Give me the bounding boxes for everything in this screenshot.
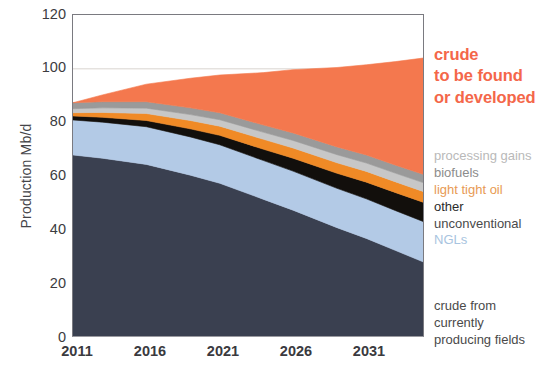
y-tick-120: 120 bbox=[30, 7, 66, 22]
x-tick-2031: 2031 bbox=[334, 344, 404, 359]
legend-footer-line-1: crude from bbox=[434, 298, 525, 315]
legend-item-ngls: NGLs bbox=[434, 232, 532, 249]
x-tick-2026: 2026 bbox=[261, 344, 331, 359]
legend-footer-line-2: currently bbox=[434, 315, 525, 332]
y-tick-60: 60 bbox=[30, 168, 66, 183]
x-tick-2021: 2021 bbox=[188, 344, 258, 359]
legend-item-unconventional: unconventional bbox=[434, 216, 532, 233]
y-tick-100: 100 bbox=[30, 60, 66, 75]
legend-headline-line-3: or developed bbox=[434, 87, 536, 108]
x-tick-2011: 2011 bbox=[42, 344, 112, 359]
legend-footer-line-3: producing fields bbox=[434, 332, 525, 349]
y-tick-20: 20 bbox=[30, 276, 66, 291]
chart-legend: crude to be found or developed processin… bbox=[434, 0, 557, 372]
y-tick-80: 80 bbox=[30, 114, 66, 129]
x-tick-2016: 2016 bbox=[115, 344, 185, 359]
legend-headline: crude to be found or developed bbox=[434, 44, 536, 108]
legend-headline-line-1: crude bbox=[434, 44, 536, 65]
legend-items: processing gains biofuels light tight oi… bbox=[434, 148, 532, 249]
legend-item-light-tight-oil: light tight oil bbox=[434, 182, 532, 199]
chart-figure: Production Mb/d 120 100 80 60 40 20 0 20… bbox=[0, 0, 557, 372]
legend-item-other: other bbox=[434, 199, 532, 216]
y-axis-tick-labels: 120 100 80 60 40 20 0 bbox=[26, 0, 66, 372]
stacked-area-svg bbox=[73, 15, 424, 337]
legend-footer: crude from currently producing fields bbox=[434, 298, 525, 349]
legend-headline-line-2: to be found bbox=[434, 65, 536, 86]
y-tick-40: 40 bbox=[30, 222, 66, 237]
legend-item-processing-gains: processing gains bbox=[434, 148, 532, 165]
legend-item-biofuels: biofuels bbox=[434, 165, 532, 182]
plot-area bbox=[72, 14, 424, 337]
